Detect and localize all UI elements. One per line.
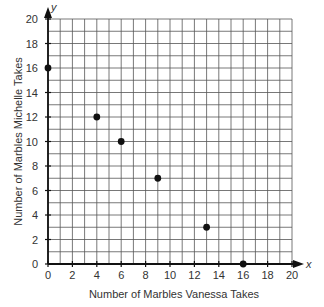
scatter-chart: 0246810121416182002468101214161820 Numbe… xyxy=(0,0,324,307)
x-tick-label: 20 xyxy=(286,269,298,281)
ticks: 0246810121416182002468101214161820 xyxy=(26,13,298,281)
data-point xyxy=(203,224,210,231)
x-tick-label: 14 xyxy=(213,269,225,281)
grid xyxy=(48,19,292,264)
x-tick-label: 10 xyxy=(164,269,176,281)
x-tick-label: 16 xyxy=(237,269,249,281)
x-tick-label: 8 xyxy=(143,269,149,281)
x-tick-label: 2 xyxy=(69,269,75,281)
y-tick-label: 8 xyxy=(32,160,38,172)
y-tick-label: 6 xyxy=(32,185,38,197)
y-axis-title: Number of Marbles Michelle Takes xyxy=(12,57,24,226)
y-tick-label: 20 xyxy=(26,13,38,25)
axes xyxy=(44,7,304,268)
data-point xyxy=(154,175,161,182)
x-axis-title: Number of Marbles Vanessa Takes xyxy=(89,288,260,300)
y-tick-label: 14 xyxy=(26,87,38,99)
data-point xyxy=(93,114,100,121)
x-tick-label: 12 xyxy=(188,269,200,281)
y-tick-label: 10 xyxy=(26,136,38,148)
y-tick-label: 4 xyxy=(32,209,38,221)
y-axis-variable: y xyxy=(50,1,58,13)
y-tick-label: 18 xyxy=(26,38,38,50)
x-tick-label: 0 xyxy=(45,269,51,281)
y-tick-label: 2 xyxy=(32,234,38,246)
x-tick-label: 4 xyxy=(94,269,100,281)
y-tick-label: 0 xyxy=(32,258,38,270)
x-axis-variable: x xyxy=(305,258,312,270)
data-point xyxy=(118,138,125,145)
x-tick-label: 18 xyxy=(261,269,273,281)
x-tick-label: 6 xyxy=(118,269,124,281)
data-point xyxy=(45,65,52,72)
x-axis-arrow xyxy=(293,260,304,268)
y-tick-label: 16 xyxy=(26,62,38,74)
y-tick-label: 12 xyxy=(26,111,38,123)
data-point xyxy=(240,261,247,268)
